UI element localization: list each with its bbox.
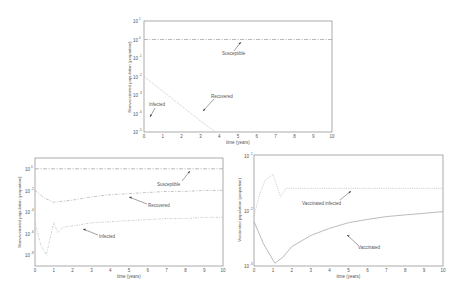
- annotation-recovered: Recovered: [148, 203, 170, 208]
- svg-text:2: 2: [71, 268, 74, 273]
- svg-text:-1: -1: [250, 152, 253, 156]
- svg-text:10: 10: [25, 210, 31, 215]
- svg-text:6: 6: [256, 134, 259, 139]
- figure-canvas: 101 100 10-1 10-2 10-3 10-4 10-5 0 1 2 3…: [0, 0, 459, 294]
- plot-frame: [35, 158, 223, 266]
- annotation-infected: Infected: [99, 234, 116, 239]
- svg-text:7: 7: [274, 134, 277, 139]
- svg-text:9: 9: [423, 268, 426, 273]
- svg-text:4: 4: [218, 134, 221, 139]
- arrowhead: [239, 42, 242, 45]
- svg-text:10: 10: [244, 154, 250, 159]
- annotation-vaccinated-infected: Vaccinated infected: [302, 201, 341, 206]
- svg-text:-3: -3: [250, 262, 253, 266]
- svg-text:9: 9: [203, 268, 206, 273]
- svg-text:-5: -5: [139, 128, 142, 132]
- svg-text:5: 5: [128, 268, 131, 273]
- plot-frame: [254, 155, 443, 266]
- x-axis-label: time (years): [337, 274, 361, 279]
- svg-text:-6: -6: [31, 230, 34, 234]
- annotation-susceptible: Susceptible: [222, 51, 246, 56]
- svg-text:-3: -3: [139, 91, 142, 95]
- svg-text:7: 7: [385, 268, 388, 273]
- svg-text:3: 3: [309, 268, 312, 273]
- svg-text:-2: -2: [31, 187, 34, 191]
- svg-text:10: 10: [133, 112, 139, 117]
- x-axis-label: time (years): [226, 140, 250, 145]
- svg-text:10: 10: [244, 264, 250, 269]
- svg-text:8: 8: [184, 268, 187, 273]
- arrowhead: [129, 197, 132, 199]
- svg-text:10: 10: [244, 209, 250, 214]
- svg-text:1: 1: [272, 268, 275, 273]
- arrow-recovered: [129, 197, 147, 204]
- svg-text:0: 0: [143, 134, 146, 139]
- arrowhead: [150, 114, 152, 117]
- svg-text:0: 0: [31, 165, 33, 169]
- arrowhead: [349, 191, 352, 194]
- svg-text:1: 1: [139, 17, 141, 21]
- svg-text:10: 10: [133, 56, 139, 61]
- svg-text:2: 2: [291, 268, 294, 273]
- annotation-recovered: Recovered: [211, 94, 233, 99]
- svg-text:-2: -2: [139, 73, 142, 77]
- svg-text:10: 10: [220, 268, 226, 273]
- svg-text:10: 10: [329, 134, 335, 139]
- svg-text:-4: -4: [139, 110, 142, 114]
- svg-text:10: 10: [133, 75, 139, 80]
- svg-text:10: 10: [133, 19, 139, 24]
- svg-text:4: 4: [109, 268, 112, 273]
- annotation-vaccinated: Vaccinated: [358, 245, 380, 250]
- svg-text:0: 0: [34, 268, 37, 273]
- svg-text:6: 6: [147, 268, 150, 273]
- svg-text:6: 6: [366, 268, 369, 273]
- series-recovered: [35, 190, 223, 202]
- svg-text:10: 10: [25, 232, 31, 237]
- plot-frame: [144, 21, 332, 132]
- svg-text:4: 4: [328, 268, 331, 273]
- svg-text:10: 10: [133, 93, 139, 98]
- series-infected: [35, 217, 223, 255]
- arrowhead: [83, 229, 86, 231]
- series-vaccinated: [254, 212, 443, 264]
- svg-text:0: 0: [253, 268, 256, 273]
- svg-text:1: 1: [53, 268, 56, 273]
- arrowhead: [188, 171, 190, 174]
- svg-text:8: 8: [404, 268, 407, 273]
- chart-bottom-left-nonvaccinated: 100 10-2 10-4 10-6 10-8 0 1 2 3 4 5 6 7 …: [17, 158, 226, 279]
- svg-text:-8: -8: [31, 251, 34, 255]
- x-axis-ticks: 0 1 2 3 4 5 6 7 8 9 10: [253, 268, 446, 273]
- series-vaccinated-infected: [254, 174, 443, 216]
- svg-text:10: 10: [25, 189, 31, 194]
- y-axis-ticks: 101 100 10-1 10-2 10-3 10-4 10-5: [133, 17, 142, 135]
- svg-text:-4: -4: [31, 208, 34, 212]
- svg-text:7: 7: [165, 268, 168, 273]
- annotation-infected: Infected: [149, 102, 166, 107]
- svg-text:9: 9: [312, 134, 315, 139]
- y-axis-ticks: 10-1 10-2 10-3: [244, 152, 253, 269]
- chart-top-nonvaccinated: 101 100 10-1 10-2 10-3 10-4 10-5 0 1 2 3…: [127, 17, 335, 145]
- y-axis-ticks: 100 10-2 10-4 10-6 10-8: [25, 165, 34, 258]
- x-axis-ticks: 0 1 2 3 4 5 6 7 8 9 10: [143, 134, 335, 139]
- svg-text:-2: -2: [250, 207, 253, 211]
- svg-text:10: 10: [25, 253, 31, 258]
- annotation-susceptible: Susceptible: [157, 182, 181, 187]
- svg-text:2: 2: [180, 134, 183, 139]
- chart-bottom-right-vaccinated: 10-1 10-2 10-3 0 1 2 3 4 5 6 7 8 9 10 ti…: [237, 152, 446, 279]
- svg-text:-1: -1: [139, 54, 142, 58]
- svg-text:8: 8: [293, 134, 296, 139]
- svg-text:10: 10: [440, 268, 446, 273]
- svg-text:1: 1: [162, 134, 165, 139]
- svg-text:10: 10: [133, 130, 139, 135]
- svg-text:0: 0: [139, 36, 141, 40]
- svg-text:10: 10: [133, 38, 139, 43]
- svg-text:3: 3: [90, 268, 93, 273]
- svg-text:5: 5: [347, 268, 350, 273]
- svg-text:10: 10: [25, 167, 31, 172]
- y-axis-label: Vaccinated population (proportion): [237, 178, 242, 242]
- x-axis-label: time (years): [117, 274, 141, 279]
- svg-text:5: 5: [237, 134, 240, 139]
- x-axis-ticks: 0 1 2 3 4 5 6 7 8 9 10: [34, 268, 226, 273]
- svg-text:3: 3: [199, 134, 202, 139]
- y-axis-label: Nonvaccinated population (proportion): [17, 176, 22, 248]
